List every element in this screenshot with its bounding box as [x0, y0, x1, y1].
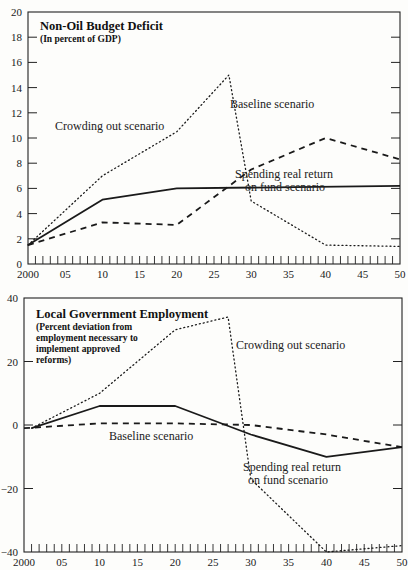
y-tick-label: 0	[13, 419, 19, 431]
y-tick-label: −20	[1, 483, 19, 495]
y-tick-label: 8	[17, 157, 23, 169]
y-tick-label: 6	[17, 182, 23, 194]
series-annotation: Crowding out scenario	[55, 119, 164, 133]
series-annotation: on fund scenario	[248, 473, 328, 487]
y-tick-label: 40	[7, 292, 19, 304]
x-tick-label: 20	[171, 268, 183, 280]
chart-title: Local Government Employment	[36, 307, 209, 321]
x-tick-label: 25	[208, 556, 220, 568]
series-solid-line	[28, 186, 400, 245]
series-dashed-line	[28, 138, 400, 245]
plot-frame	[28, 12, 400, 264]
x-tick-label: 40	[320, 268, 332, 280]
series-solid-line	[32, 406, 402, 457]
y-tick-label: 18	[11, 31, 23, 43]
x-tick-label: 10	[94, 556, 106, 568]
x-tick-label: 45	[357, 268, 369, 280]
x-tick-label: 50	[395, 268, 407, 280]
x-tick-label: 35	[283, 556, 295, 568]
series-annotation: Spending real return	[243, 460, 341, 474]
series-annotation: Spending real return	[235, 167, 333, 181]
x-tick-label: 30	[246, 268, 258, 280]
chart-subtitle: (Percent deviation from	[36, 322, 132, 333]
chart-title: Non-Oil Budget Deficit	[40, 19, 164, 33]
chart-subtitle: employment necessary to	[36, 333, 138, 343]
series-dashed-line	[24, 423, 402, 447]
x-tick-label: 35	[283, 268, 295, 280]
series-annotation: on fund scenario	[245, 180, 325, 194]
x-tick-label: 05	[60, 268, 72, 280]
x-tick-label: 20	[170, 556, 182, 568]
x-tick-label: 30	[245, 556, 257, 568]
y-tick-label: 20	[11, 6, 23, 18]
y-tick-label: 4	[17, 208, 23, 220]
chart-subtitle: (In percent of GDP)	[40, 34, 121, 45]
y-tick-label: 16	[11, 56, 23, 68]
x-tick-label: 25	[209, 268, 221, 280]
y-tick-label: 12	[11, 107, 22, 119]
series-dotted-line	[28, 75, 400, 246]
x-tick-label: 2000	[13, 556, 36, 568]
y-tick-label: 10	[11, 132, 23, 144]
series-annotation: Baseline scenario	[109, 429, 193, 443]
series-annotation: Crowding out scenario	[236, 338, 345, 352]
x-tick-label: 10	[97, 268, 109, 280]
y-tick-label: 20	[7, 356, 19, 368]
x-tick-label: 40	[321, 556, 333, 568]
x-tick-label: 50	[397, 556, 408, 568]
x-tick-label: 05	[56, 556, 68, 568]
x-tick-label: 45	[359, 556, 371, 568]
non-oil-budget-deficit-chart: 0246810121416182020000510152025303540455…	[11, 6, 406, 280]
series-annotation: Baseline scenario	[230, 97, 314, 111]
x-tick-label: 15	[132, 556, 144, 568]
x-tick-label: 15	[134, 268, 146, 280]
local-government-employment-chart: −40−2002040200005101520253035404550Local…	[1, 292, 408, 568]
chart-subtitle: reforms)	[36, 355, 71, 366]
x-tick-label: 2000	[17, 268, 40, 280]
y-tick-label: 2	[17, 233, 23, 245]
chart-figure: 0246810121416182020000510152025303540455…	[0, 0, 408, 570]
chart-subtitle: implement approved	[36, 344, 121, 354]
y-tick-label: 14	[11, 82, 23, 94]
